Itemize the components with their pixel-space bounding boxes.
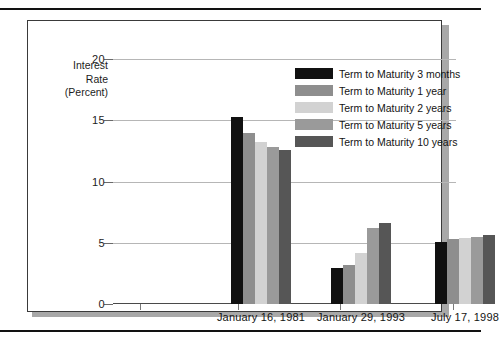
- bar: [435, 242, 447, 304]
- y-axis-tick-mark: [104, 182, 113, 183]
- bar: [343, 265, 355, 304]
- x-axis-category-label: January 29, 1993: [317, 311, 405, 323]
- bar: [231, 117, 243, 304]
- x-axis-tick-mark: [238, 304, 239, 310]
- page-rule-top: [0, 8, 481, 10]
- bar-group: [231, 59, 291, 304]
- legend-label: Term to Maturity 10 years: [339, 136, 457, 148]
- bar: [267, 147, 279, 304]
- bar: [379, 223, 391, 304]
- legend: Term to Maturity 3 monthsTerm to Maturit…: [295, 65, 460, 150]
- y-axis-tick-label: 15: [92, 114, 105, 126]
- bar: [459, 238, 471, 304]
- bar: [355, 253, 367, 304]
- y-axis-tick-label: 0: [98, 298, 105, 310]
- bar: [243, 133, 255, 305]
- legend-item: Term to Maturity 10 years: [295, 133, 460, 150]
- legend-item: Term to Maturity 5 years: [295, 116, 460, 133]
- y-axis-tick-label: 20: [92, 53, 105, 65]
- y-axis-tick-mark: [104, 304, 113, 305]
- y-axis-tick-mark: [104, 120, 113, 121]
- y-axis-tick-label: 5: [98, 237, 105, 249]
- bar: [447, 239, 459, 304]
- legend-item: Term to Maturity 2 years: [295, 99, 460, 116]
- bar: [279, 150, 291, 304]
- bar: [255, 142, 267, 304]
- y-axis-title-line-3: (Percent): [64, 86, 108, 100]
- legend-swatch: [295, 68, 333, 79]
- legend-label: Term to Maturity 1 year: [339, 85, 446, 97]
- legend-label: Term to Maturity 3 months: [339, 68, 460, 80]
- bar: [367, 228, 379, 304]
- legend-swatch: [295, 119, 333, 130]
- x-axis-tick-mark: [340, 304, 341, 310]
- y-axis-title-line-2: Rate: [64, 73, 108, 87]
- bar: [483, 235, 495, 304]
- legend-item: Term to Maturity 1 year: [295, 82, 460, 99]
- x-axis-category-label: July 17, 1998: [431, 311, 499, 323]
- bar: [471, 237, 483, 304]
- bar: [331, 268, 343, 304]
- page-rule-bottom: [0, 330, 481, 332]
- x-axis-tick-mark: [453, 304, 454, 310]
- x-axis-category-label: January 16, 1981: [217, 311, 305, 323]
- y-axis-tick-mark: [104, 59, 113, 60]
- figure-box: Interest Rate (Percent) 05101520 January…: [27, 20, 442, 312]
- legend-item: Term to Maturity 3 months: [295, 65, 460, 82]
- legend-swatch: [295, 136, 333, 147]
- y-axis-title: Interest Rate (Percent): [64, 59, 108, 100]
- y-axis-tick-label: 10: [92, 176, 105, 188]
- legend-label: Term to Maturity 5 years: [339, 119, 452, 131]
- legend-swatch: [295, 85, 333, 96]
- y-axis-tick-mark: [104, 243, 113, 244]
- legend-label: Term to Maturity 2 years: [339, 102, 452, 114]
- legend-swatch: [295, 102, 333, 113]
- x-axis-tick-mark: [140, 304, 141, 310]
